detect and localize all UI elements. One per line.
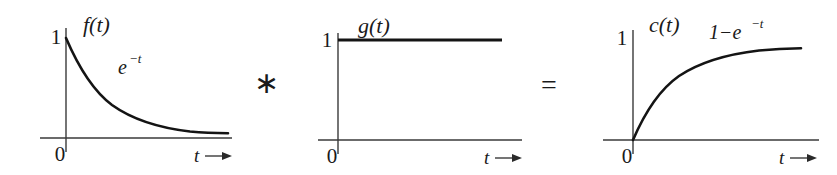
panel-f-y-tick-label: 1: [51, 25, 62, 49]
panel-f-svg: 1 0 f(t) e −t t: [0, 0, 250, 175]
panel-g-svg: 1 0 g(t) t: [290, 0, 540, 175]
panel-f-x-axis-label: t: [194, 145, 232, 166]
convolution-operator: ∗: [250, 0, 290, 175]
panel-g-origin-label: 0: [327, 144, 338, 168]
panel-c-curve-annotation-exponent: −t: [751, 16, 764, 31]
panel-c-y-tick-label: 1: [617, 26, 628, 50]
panel-f-x-axis-label-text: t: [194, 145, 200, 166]
equals-operator-svg: =: [533, 0, 573, 175]
panel-f-curve-annotation: e −t: [118, 51, 142, 78]
panel-f-curve-annotation-base: e: [118, 56, 127, 78]
panel-c-origin-label: 0: [622, 144, 633, 168]
panel-c-function-label: c(t): [649, 12, 680, 37]
panel-f-origin-label: 0: [55, 142, 66, 166]
panel-c-x-axis-arrow-head: [807, 154, 817, 162]
equals-operator: =: [533, 0, 573, 175]
panel-c-curve-annotation: 1−e −t: [709, 16, 764, 43]
panel-f-x-axis-arrow-head: [222, 152, 232, 160]
convolution-operator-glyph: ∗: [254, 66, 279, 99]
panel-c-x-axis-label: t: [779, 147, 817, 168]
panel-f-function-label: f(t): [83, 12, 110, 37]
convolution-figure: 1 0 f(t) e −t t ∗: [0, 0, 837, 175]
panel-f-plot: 1 0 f(t) e −t t: [0, 0, 250, 175]
panel-c-curve: [633, 48, 801, 140]
panel-c-curve-annotation-base: 1−e: [709, 21, 741, 43]
panel-f-curve-annotation-exponent: −t: [129, 51, 142, 66]
convolution-operator-svg: ∗: [250, 0, 290, 175]
panel-g-x-axis-label-text: t: [484, 147, 490, 168]
panel-g-x-axis-label: t: [484, 147, 522, 168]
panel-g-x-axis-arrow-head: [512, 154, 522, 162]
panel-g-plot: 1 0 g(t) t: [290, 0, 540, 175]
panel-g-y-tick-label: 1: [322, 28, 333, 52]
panel-c-svg: 1 0 c(t) 1−e −t t: [573, 0, 837, 175]
panel-f-curve: [66, 38, 228, 133]
panel-c-x-axis-label-text: t: [779, 147, 785, 168]
panel-c-plot: 1 0 c(t) 1−e −t t: [573, 0, 837, 175]
panel-g-function-label: g(t): [358, 13, 390, 38]
equals-operator-glyph: =: [541, 69, 557, 100]
